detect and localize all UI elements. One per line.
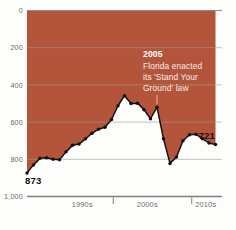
- data-point-marker: [214, 143, 218, 147]
- data-point-marker: [32, 163, 36, 167]
- y-axis-tick-label: 800: [10, 155, 23, 164]
- y-axis-tick-label: 400: [10, 81, 23, 90]
- x-axis-tick-label: 2000s: [137, 200, 158, 209]
- data-point-marker: [90, 132, 94, 136]
- data-point-marker: [207, 141, 211, 145]
- annotation-body-line-1: Florida enacted: [143, 61, 202, 71]
- data-point-marker: [38, 157, 42, 161]
- data-point-marker: [84, 137, 88, 141]
- data-point-marker: [103, 126, 107, 130]
- data-point-marker: [155, 105, 159, 109]
- y-axis-tick-label: 600: [10, 118, 23, 127]
- data-point-marker: [168, 162, 172, 166]
- first-value-label: 873: [25, 175, 42, 186]
- y-axis-tick-label: 1,000: [4, 192, 23, 201]
- data-point-marker: [136, 101, 140, 105]
- last-value-label: 721: [199, 130, 216, 141]
- cropped-caption-strip: [4, 221, 232, 230]
- data-point-marker: [97, 127, 101, 131]
- data-point-marker: [149, 117, 153, 121]
- data-point-marker: [71, 144, 75, 148]
- data-point-marker: [51, 158, 55, 162]
- data-point-marker: [116, 104, 120, 108]
- data-point-marker: [110, 118, 114, 122]
- data-point-marker: [123, 94, 127, 98]
- area-chart: 02004006008001,000 1990s2000s2010s 873 7…: [0, 0, 236, 230]
- x-axis-tick-label: 1990s: [72, 200, 93, 209]
- data-point-marker: [129, 102, 133, 106]
- annotation-year: 2005: [143, 49, 163, 59]
- x-axis-tick-label: 2010s: [195, 200, 216, 209]
- annotation-body-line-2: its 'Stand Your: [143, 72, 198, 82]
- data-point-marker: [188, 133, 192, 137]
- data-point-marker: [142, 108, 146, 112]
- x-axis-tick-labels: 1990s2000s2010s: [72, 200, 217, 209]
- data-point-marker: [194, 132, 198, 136]
- y-axis-tick-label: 200: [10, 43, 23, 52]
- data-point-marker: [45, 156, 49, 160]
- data-point-marker: [77, 142, 81, 146]
- y-axis-tick-label: 0: [19, 6, 23, 15]
- data-point-marker: [181, 139, 185, 143]
- data-point-marker: [175, 155, 179, 159]
- data-point-marker: [64, 150, 68, 154]
- chart-container: 02004006008001,000 1990s2000s2010s 873 7…: [0, 0, 236, 230]
- annotation-body-line-3: Ground' law: [143, 83, 189, 93]
- data-point-marker: [162, 137, 166, 141]
- y-axis-tick-labels: 02004006008001,000: [4, 6, 23, 201]
- data-point-marker: [58, 158, 62, 162]
